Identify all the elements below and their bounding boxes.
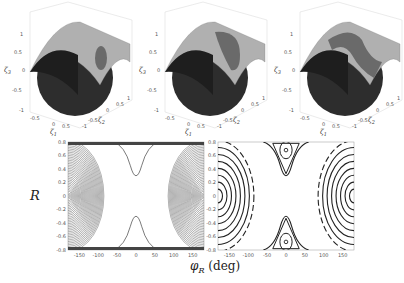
svg-text:ζ2: ζ2 (233, 116, 240, 125)
svg-text:ζ3: ζ3 (139, 66, 146, 75)
plot-area (218, 142, 354, 250)
y-tick-label: -0.8 (206, 247, 216, 253)
svg-text:1: 1 (155, 31, 158, 37)
svg-text:1: 1 (397, 95, 400, 101)
svg-text:0.5: 0.5 (149, 49, 157, 55)
y-tick-label: 0.6 (58, 152, 66, 158)
svg-text:0: 0 (106, 107, 109, 113)
surface-plot-3: 10.50-0.5-1 ζ3 -0.500.5 ζ1 -1-0.500.51 ζ… (270, 0, 404, 140)
x-tick-label: 0 (284, 252, 287, 258)
svg-text:-1: -1 (82, 123, 87, 129)
svg-text:0.5: 0.5 (332, 123, 340, 129)
y-tick-label: -0.4 (206, 220, 216, 226)
x-tick-label: 150 (338, 252, 348, 258)
contour-plot-sparse: -150-100-500501001500.80.60.40.20-0.2-0.… (200, 135, 404, 265)
svg-text:0: 0 (157, 67, 160, 73)
svg-text:-0.5: -0.5 (282, 87, 292, 93)
intersection-patch (95, 46, 107, 70)
svg-text:0.5: 0.5 (62, 123, 70, 129)
x-tick-label: -150 (224, 252, 235, 258)
x-tick-label: 50 (152, 252, 158, 258)
svg-text:-0.5: -0.5 (88, 117, 98, 123)
x-tick-label: -50 (263, 252, 271, 258)
svg-text:-1: -1 (217, 123, 222, 129)
y-tick-label: 0.2 (58, 179, 66, 185)
x-tick-label: 0 (134, 252, 137, 258)
phi-subscript: R (198, 266, 204, 275)
svg-text:0.5: 0.5 (284, 49, 292, 55)
y-tick-label: 0.8 (58, 139, 66, 145)
svg-text:-0.5: -0.5 (12, 87, 22, 93)
surface-plot-1: 10.50-0.5-1 ζ3 -0.500.5 ζ1 -1-0.500.51 ζ… (0, 0, 134, 140)
svg-text:0: 0 (52, 121, 55, 127)
svg-text:-0.5: -0.5 (223, 117, 233, 123)
svg-text:ζ2: ζ2 (98, 116, 105, 125)
svg-text:0: 0 (241, 107, 244, 113)
unit-label: (deg) (208, 259, 240, 273)
x-tick-label: -150 (74, 252, 85, 258)
svg-text:-0.5: -0.5 (358, 117, 368, 123)
svg-text:1: 1 (290, 31, 293, 37)
plot-area (68, 142, 204, 250)
x-tick-label: -50 (113, 252, 121, 258)
svg-text:-1: -1 (19, 107, 24, 113)
x-tick-label: 100 (319, 252, 329, 258)
svg-text:0.5: 0.5 (251, 101, 259, 107)
surface-plot-2: 10.50-0.5-1 ζ3 -0.500.5 ζ1 -1-0.500.51 ζ… (135, 0, 269, 140)
y-tick-label: -0.8 (56, 247, 66, 253)
svg-text:-0.5: -0.5 (165, 115, 175, 121)
svg-text:0.5: 0.5 (14, 49, 22, 55)
boundary-band (68, 247, 204, 250)
svg-text:-0.5: -0.5 (30, 115, 40, 121)
y-tick-label: -0.2 (56, 206, 66, 212)
y-tick-label: -0.6 (206, 233, 216, 239)
svg-text:1: 1 (20, 31, 23, 37)
svg-text:0.5: 0.5 (116, 101, 124, 107)
svg-text:-0.5: -0.5 (147, 87, 157, 93)
y-tick-label: 0.2 (208, 179, 216, 185)
x-tick-label: 50 (302, 252, 308, 258)
y-tick-label: 0.4 (208, 166, 216, 172)
svg-text:-1: -1 (352, 123, 357, 129)
svg-text:0.5: 0.5 (386, 101, 394, 107)
svg-text:-1: -1 (289, 107, 294, 113)
svg-text:ζ2: ζ2 (368, 116, 375, 125)
x-axis-label: φR (deg) (190, 259, 240, 275)
svg-text:0: 0 (322, 121, 325, 127)
y-tick-label: -0.4 (56, 220, 66, 226)
svg-text:-0.5: -0.5 (300, 115, 310, 121)
y-tick-label: 0.4 (58, 166, 66, 172)
y-tick-label: 0 (213, 193, 216, 199)
x-tick-label: 100 (169, 252, 179, 258)
svg-text:0.5: 0.5 (197, 123, 205, 129)
y-tick-label: 0 (63, 193, 66, 199)
y-tick-label: 0.6 (208, 152, 216, 158)
y-tick-label: -0.6 (56, 233, 66, 239)
svg-text:1: 1 (262, 95, 265, 101)
svg-text:-1: -1 (154, 107, 159, 113)
svg-text:0: 0 (292, 67, 295, 73)
y-axis-label-R: R (30, 188, 40, 203)
boundary-band (68, 142, 204, 145)
svg-text:0: 0 (187, 121, 190, 127)
x-tick-label: -100 (93, 252, 104, 258)
svg-text:ζ3: ζ3 (274, 66, 281, 75)
svg-text:0: 0 (376, 107, 379, 113)
x-tick-label: 150 (188, 252, 198, 258)
y-tick-label: 0.8 (208, 139, 216, 145)
svg-text:ζ3: ζ3 (4, 66, 11, 75)
y-tick-label: -0.2 (206, 206, 216, 212)
x-tick-label: -100 (243, 252, 254, 258)
svg-text:0: 0 (22, 67, 25, 73)
svg-text:1: 1 (127, 95, 130, 101)
